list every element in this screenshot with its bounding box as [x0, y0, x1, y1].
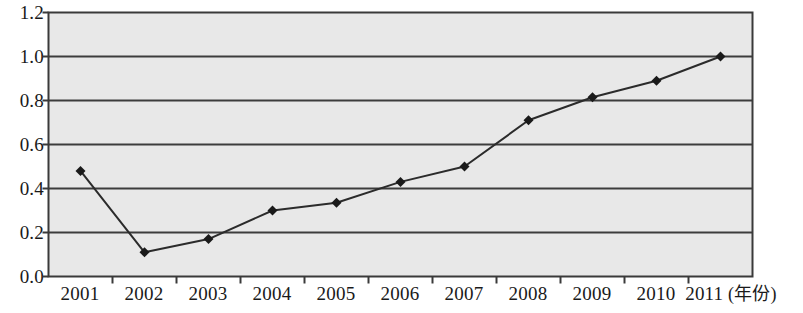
- x-axis-tick-labels: 2001200220032004200520062007200820092010…: [48, 283, 803, 313]
- x-axis-tick-label: 2002: [125, 283, 164, 305]
- x-axis-tick-label: 2008: [509, 283, 548, 305]
- chart-plot-area: [0, 0, 803, 313]
- x-axis-tick-label: 2009: [573, 283, 612, 305]
- x-axis-tick-label: 2005: [317, 283, 356, 305]
- line-chart: 0.00.20.40.60.81.01.2 200120022003200420…: [0, 0, 803, 313]
- x-axis-unit-label: (年份): [723, 284, 777, 304]
- x-axis-tick-label-text: 2011: [685, 283, 723, 304]
- x-axis-tick-label: 2010: [637, 283, 676, 305]
- x-axis-tick-label: 2004: [253, 283, 292, 305]
- x-axis-tick-label: 2007: [445, 283, 484, 305]
- x-axis-tick-label: 2006: [381, 283, 420, 305]
- x-axis-tick-label: 2011 (年份): [685, 283, 777, 305]
- x-axis-tick-label: 2001: [61, 283, 100, 305]
- x-axis-tick-label: 2003: [189, 283, 228, 305]
